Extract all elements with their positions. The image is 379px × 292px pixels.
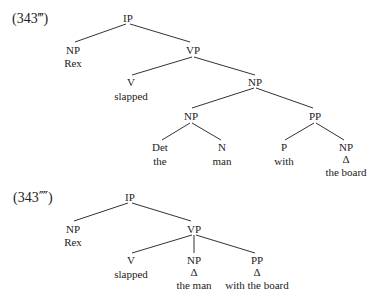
edge-vp-pp [196, 235, 255, 253]
edge-ip-vp [130, 24, 190, 42]
example-label: (343⁗) [13, 190, 53, 206]
node-np-object: NP [248, 76, 262, 88]
edge-pp-p [285, 123, 314, 140]
triangle-icon: Δ [253, 266, 260, 278]
word-man: man [213, 155, 232, 167]
word-the: the [153, 155, 167, 167]
word-with-the-board: with the board [225, 279, 289, 291]
edge-np-det [162, 123, 190, 140]
node-p: P [281, 141, 287, 153]
word-slapped: slapped [114, 90, 148, 102]
edge-np-n [192, 123, 221, 140]
node-np-object: NP [187, 254, 201, 266]
edge-vp-np [194, 57, 255, 75]
node-ip: IP [123, 12, 133, 24]
node-v: V [127, 254, 135, 266]
edge-ip-np [74, 203, 128, 221]
word-the-board: the board [325, 166, 367, 178]
word-slapped: slapped [114, 268, 148, 280]
edge-ip-vp [132, 203, 191, 221]
node-vp: VP [186, 44, 200, 56]
edge-vp-v [132, 235, 192, 253]
word-rex: Rex [64, 236, 82, 248]
tree-343-quadruple-prime: (343⁗) IP NP Rex VP V slapped NP Δ the m… [13, 190, 289, 291]
node-vp: VP [187, 223, 201, 235]
edge-ip-np [75, 24, 126, 42]
node-np-pp: NP [339, 141, 353, 153]
node-pp: PP [251, 254, 263, 266]
syntax-trees-figure: (343‴) IP NP Rex VP V slapped NP NP PP D… [0, 0, 379, 292]
node-np-subject: NP [66, 44, 80, 56]
edge-vp-v [132, 57, 192, 75]
triangle-icon: Δ [190, 266, 197, 278]
example-label: (343‴) [12, 11, 48, 27]
node-n: N [218, 141, 226, 153]
word-rex: Rex [64, 57, 82, 69]
node-pp: PP [309, 110, 321, 122]
node-det: Det [152, 141, 168, 153]
node-np-inner: NP [184, 110, 198, 122]
edge-pp-np [316, 123, 344, 140]
triangle-icon: Δ [342, 153, 349, 165]
node-v: V [127, 76, 135, 88]
edge-np-pp [256, 88, 313, 108]
tree-343-triple-prime: (343‴) IP NP Rex VP V slapped NP NP PP D… [12, 11, 367, 178]
node-np-subject: NP [66, 223, 80, 235]
node-ip: IP [125, 191, 135, 203]
word-with: with [274, 155, 294, 167]
word-the-man: the man [176, 279, 212, 291]
edge-np-np [192, 88, 254, 108]
